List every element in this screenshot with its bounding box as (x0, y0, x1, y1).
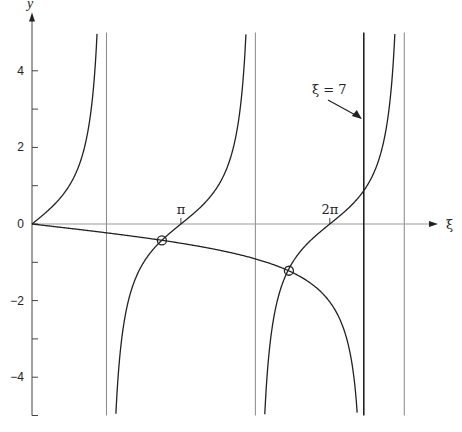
y-axis-label: y (25, 0, 34, 11)
x-axis-label: ξ (446, 217, 453, 232)
x-axis-arrow-icon (429, 221, 438, 227)
sqrt-curve (32, 224, 357, 413)
x-tick-label: 2π (321, 202, 338, 217)
x-ticks: π2π (177, 202, 339, 224)
y-tick-label: 0 (17, 217, 24, 231)
intersection-markers (157, 236, 293, 275)
plot-area: 420−2−4 π2π ξ y ξ = 7 (0, 0, 462, 432)
tan-curve (32, 34, 97, 224)
chart-figure: 420−2−4 π2π ξ y ξ = 7 (0, 0, 462, 432)
y-tick-label: −2 (10, 294, 24, 308)
y-tick-label: 4 (17, 64, 24, 78)
annotation-label: ξ = 7 (312, 82, 347, 97)
y-tick-label: −4 (10, 370, 24, 384)
y-ticks: 420−2−4 (10, 64, 38, 416)
annotation-arrowhead-icon (352, 110, 362, 119)
x-tick-label: π (177, 202, 186, 217)
y-tick-label: 2 (17, 140, 24, 154)
y-axis-arrow-icon (29, 13, 35, 22)
